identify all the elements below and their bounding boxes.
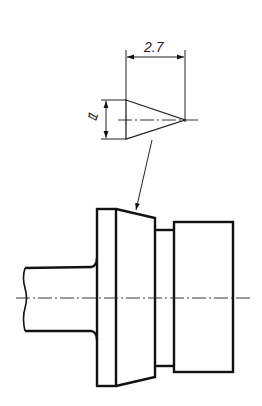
tapered-section — [116, 209, 155, 386]
shaft-top-edge — [25, 267, 92, 268]
dimension-label-length: 2.7 — [143, 39, 165, 55]
leader-arrow — [136, 140, 152, 210]
shaft-break-line — [24, 268, 27, 331]
cone-detail: 2.7 1 — [84, 39, 200, 139]
technical-drawing: 2.7 1 — [0, 0, 262, 406]
flange — [97, 209, 116, 386]
cone-outline — [126, 100, 185, 139]
right-cylinder — [174, 222, 233, 372]
turned-part — [16, 209, 250, 386]
dimension-label-height: 1 — [84, 109, 102, 122]
